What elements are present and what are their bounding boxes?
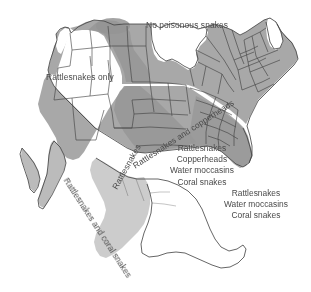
legend-southeast-line-1: Rattlesnakes xyxy=(170,143,234,154)
legend-southeast-line-3: Water moccasins xyxy=(170,165,234,176)
legend-mexico-line-1: Rattlesnakes xyxy=(224,188,288,199)
snake-distribution-map: No poisonous snakes Rattlesnakes only Ra… xyxy=(0,0,311,292)
legend-southeast-line-2: Copperheads xyxy=(170,154,234,165)
label-no-poisonous-snakes: No poisonous snakes xyxy=(146,20,228,31)
legend-mexico: Rattlesnakes Water moccasins Coral snake… xyxy=(224,188,288,222)
legend-mexico-line-2: Water moccasins xyxy=(224,199,288,210)
legend-southeast-line-4: Coral snakes xyxy=(170,177,234,188)
label-rattlesnakes-only: Rattlesnakes only xyxy=(46,72,114,83)
legend-southeast: Rattlesnakes Copperheads Water moccasins… xyxy=(170,143,234,188)
legend-mexico-line-3: Coral snakes xyxy=(224,210,288,221)
